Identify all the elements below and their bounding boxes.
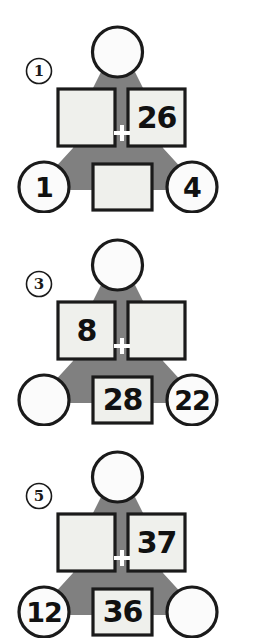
- left-addend-box[interactable]: [58, 89, 115, 146]
- left-foot-circle[interactable]: [19, 375, 69, 425]
- center-foot-box[interactable]: [93, 164, 152, 210]
- puzzle-item[interactable]: 3 8 28 22: [0, 213, 257, 426]
- worksheet-canvas: 1 26 1 4 3 8 28 22: [0, 0, 257, 638]
- right-foot-circle[interactable]: [167, 587, 217, 637]
- right-foot-value: 22: [167, 375, 217, 425]
- left-addend-box[interactable]: [58, 514, 115, 571]
- head-circle[interactable]: [93, 452, 143, 502]
- head-circle[interactable]: [93, 240, 143, 290]
- center-foot-value: 36: [93, 589, 152, 635]
- left-addend-value: 8: [58, 302, 115, 359]
- right-addend-value: 37: [128, 514, 185, 571]
- puzzle-index-label: 5: [26, 483, 52, 509]
- right-addend-box[interactable]: [128, 302, 185, 359]
- puzzle-index-label: 1: [26, 58, 52, 84]
- center-foot-value: 28: [93, 377, 152, 423]
- head-circle[interactable]: [93, 27, 143, 77]
- right-foot-value: 4: [167, 162, 217, 212]
- puzzle-item[interactable]: 5 37 12 36: [0, 425, 257, 638]
- left-foot-value: 12: [19, 587, 69, 637]
- left-foot-value: 1: [19, 162, 69, 212]
- puzzle-index-label: 3: [26, 271, 52, 297]
- right-addend-value: 26: [128, 89, 185, 146]
- puzzle-item[interactable]: 1 26 1 4: [0, 0, 257, 213]
